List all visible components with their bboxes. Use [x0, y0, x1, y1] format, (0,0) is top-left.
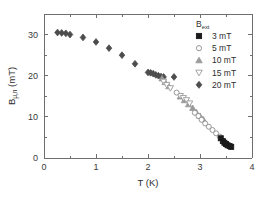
data-point-20-mT	[80, 34, 86, 41]
data-point-20-mT	[119, 52, 125, 59]
legend-label-20-mT: 20 mT	[212, 80, 236, 90]
legend-marker-10-mT	[196, 57, 203, 63]
y-tick-label: 0	[33, 153, 38, 163]
legend-title: Bext	[196, 19, 210, 30]
y-tick-label: 10	[28, 112, 38, 122]
legend-label-3-mT: 3 mT	[212, 31, 231, 41]
y-tick-label: 20	[28, 71, 38, 81]
data-point-20-mT	[132, 60, 138, 67]
legend-label-15-mT: 15 mT	[212, 68, 236, 78]
x-tick-label: 3	[197, 162, 202, 172]
data-point-20-mT	[171, 74, 177, 81]
y-tick-label: 30	[28, 30, 38, 40]
y-axis-title-text: Bμ,n (mT)	[6, 67, 19, 105]
x-tick-label: 4	[249, 162, 254, 172]
legend-marker-20-mT	[196, 81, 202, 88]
data-point-20-mT	[93, 39, 99, 46]
scatter-plot: 012340102030T (K)Bμ,n (mT)Bext3 mT5 mT10…	[0, 0, 275, 198]
figure-container: 012340102030T (K)Bμ,n (mT)Bext3 mT5 mT10…	[0, 0, 275, 198]
x-axis-title: T (K)	[138, 177, 159, 188]
x-tick-label: 0	[41, 162, 46, 172]
x-tick-label: 2	[145, 162, 150, 172]
legend-marker-5-mT	[196, 46, 201, 51]
legend-label-5-mT: 5 mT	[212, 43, 231, 53]
data-point-3-mT	[229, 144, 234, 149]
x-tick-label: 1	[93, 162, 98, 172]
legend-marker-15-mT	[196, 70, 203, 76]
data-point-20-mT	[106, 45, 112, 52]
data-point-5-mT	[174, 90, 179, 95]
legend-marker-3-mT	[196, 33, 201, 38]
y-axis-title: Bμ,n (mT)	[6, 67, 19, 105]
legend-label-10-mT: 10 mT	[212, 55, 236, 65]
